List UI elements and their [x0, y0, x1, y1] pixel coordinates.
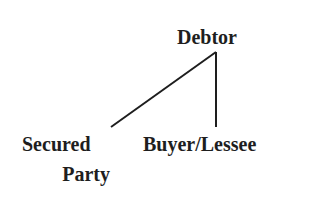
edge-debtor-to-secured-party [111, 52, 216, 127]
node-buyer-lessee: Buyer/Lessee [143, 129, 256, 159]
node-secured-party-line1: Secured [22, 129, 110, 159]
node-secured-party-line2: Party [22, 159, 110, 189]
node-debtor: Debtor [177, 22, 237, 52]
node-secured-party: Secured Party [22, 129, 110, 189]
